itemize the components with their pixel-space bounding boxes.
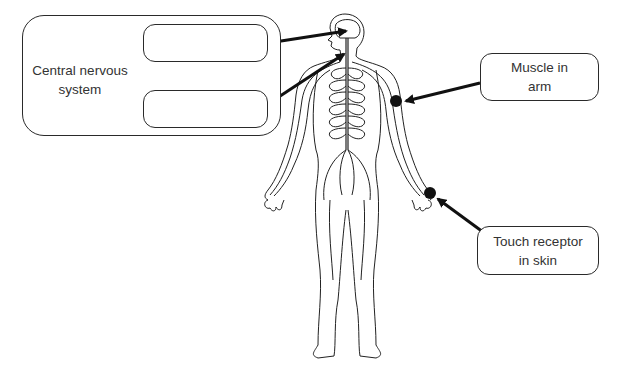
touch-receptor-marker-dot <box>424 187 436 199</box>
cns-label: Central nervous system <box>24 61 136 99</box>
blank-answer-box-brain[interactable] <box>143 24 268 62</box>
arrow-to-touch-receptor <box>438 199 483 232</box>
human-figure <box>265 14 433 358</box>
cns-label-line2: system <box>24 80 136 99</box>
touch-label-line2: in skin <box>493 251 582 270</box>
muscle-label-line2: arm <box>511 77 568 96</box>
touch-receptor-label: Touch receptor in skin <box>493 232 582 270</box>
muscle-label-line1: Muscle in <box>511 58 568 77</box>
touch-label-line1: Touch receptor <box>493 232 582 251</box>
blank-answer-box-spinal-cord[interactable] <box>143 90 268 128</box>
cns-label-line1: Central nervous <box>24 61 136 80</box>
muscle-label: Muscle in arm <box>511 58 568 96</box>
arrow-to-muscle <box>406 83 480 101</box>
touch-receptor-label-box: Touch receptor in skin <box>477 226 599 275</box>
muscle-marker-dot <box>390 95 402 107</box>
muscle-label-box: Muscle in arm <box>480 53 599 101</box>
